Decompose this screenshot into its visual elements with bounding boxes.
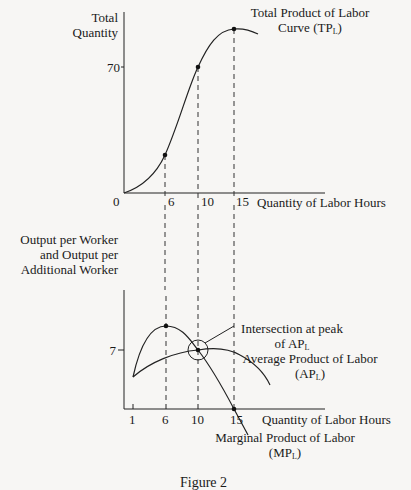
intersection-label-prefix: of AP xyxy=(275,336,305,351)
top-chart-guides xyxy=(165,29,234,200)
intersection-label: Intersection at peak of APL xyxy=(237,321,347,355)
tp-curve-label: Total Product of Labor Curve (TPL) xyxy=(245,5,375,39)
tp-label-line1: Total Product of Labor xyxy=(245,5,375,20)
connector-guides xyxy=(165,205,234,290)
tp-curve xyxy=(124,29,258,193)
bottom-points xyxy=(164,324,237,412)
bottom-x-tick-15: 15 xyxy=(230,412,243,427)
bottom-ylabel-line1: Output per Worker xyxy=(0,232,118,247)
mp-label-line2: (MPL) xyxy=(210,445,360,464)
top-xlabel: Quantity of Labor Hours xyxy=(257,195,386,210)
bottom-ylabel: Output per Worker and Output per Additio… xyxy=(0,232,118,277)
top-x-tick-6: 6 xyxy=(168,194,175,209)
top-ylabel: Total Quantity xyxy=(40,10,118,40)
ap-label-line1: Average Product of Labor xyxy=(240,351,380,366)
top-origin-label: 0 xyxy=(113,194,120,209)
mp-label-prefix: (MP xyxy=(269,445,292,460)
bottom-x-tick-6: 6 xyxy=(162,412,169,427)
mp-label-suffix: ) xyxy=(297,445,301,460)
ap-label-prefix: (AP xyxy=(295,366,316,381)
tp-label-prefix: Curve (TP xyxy=(278,20,333,35)
bottom-x-tick-1: 1 xyxy=(129,412,136,427)
top-y-tick-70: 70 xyxy=(90,60,120,75)
intersection-label-line1: Intersection at peak xyxy=(237,321,347,336)
ap-label-suffix: ) xyxy=(321,366,325,381)
intersection-pointer xyxy=(205,326,234,343)
tp-label-suffix: ) xyxy=(338,20,342,35)
top-chart-axes xyxy=(121,12,325,193)
bottom-ylabel-line3: Additional Worker xyxy=(0,262,118,277)
top-x-tick-15: 15 xyxy=(236,194,249,209)
ap-label-line2: (APL) xyxy=(240,366,380,385)
bottom-x-tick-10: 10 xyxy=(191,412,204,427)
tp-points xyxy=(163,27,237,158)
top-ylabel-line2: Quantity xyxy=(40,25,118,40)
bottom-ylabel-line2: and Output per xyxy=(0,247,118,262)
mp-label-line1: Marginal Product of Labor xyxy=(210,430,360,445)
mp-curve-label: Marginal Product of Labor (MPL) xyxy=(210,430,360,464)
bottom-y-tick-7: 7 xyxy=(100,343,116,358)
top-ylabel-line1: Total xyxy=(40,10,118,25)
tp-label-line2: Curve (TPL) xyxy=(245,20,375,39)
bottom-xlabel: Quantity of Labor Hours xyxy=(262,412,391,427)
ap-curve-label: Average Product of Labor (APL) xyxy=(240,351,380,385)
top-x-tick-10: 10 xyxy=(201,194,214,209)
figure-caption: Figure 2 xyxy=(180,475,227,490)
